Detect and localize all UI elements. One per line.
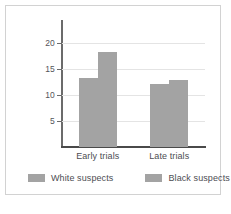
- chart-legend: White suspectsBlack suspects: [14, 170, 214, 186]
- legend-swatch: [28, 174, 45, 182]
- gridline: [62, 43, 205, 44]
- bar: [98, 52, 117, 147]
- legend-swatch: [145, 174, 162, 182]
- legend-label: Black suspects: [168, 173, 228, 183]
- y-tick-label: 5: [33, 116, 55, 126]
- legend-entry: White suspects: [28, 173, 113, 183]
- legend-label: White suspects: [51, 173, 113, 183]
- bar: [150, 84, 169, 147]
- bar: [169, 80, 188, 147]
- y-tick-label: 10: [33, 90, 55, 100]
- x-category-label: Early trials: [58, 151, 138, 161]
- plot-area: [62, 22, 205, 147]
- gridline: [62, 69, 205, 70]
- x-category-label: Late trials: [129, 151, 209, 161]
- legend-entry: Black suspects: [145, 173, 228, 183]
- bar: [79, 78, 98, 147]
- y-tick-label: 15: [33, 64, 55, 74]
- y-tick-label: 20: [33, 38, 55, 48]
- chart-figure: Mistaken shootings (expressed as percent…: [0, 0, 228, 214]
